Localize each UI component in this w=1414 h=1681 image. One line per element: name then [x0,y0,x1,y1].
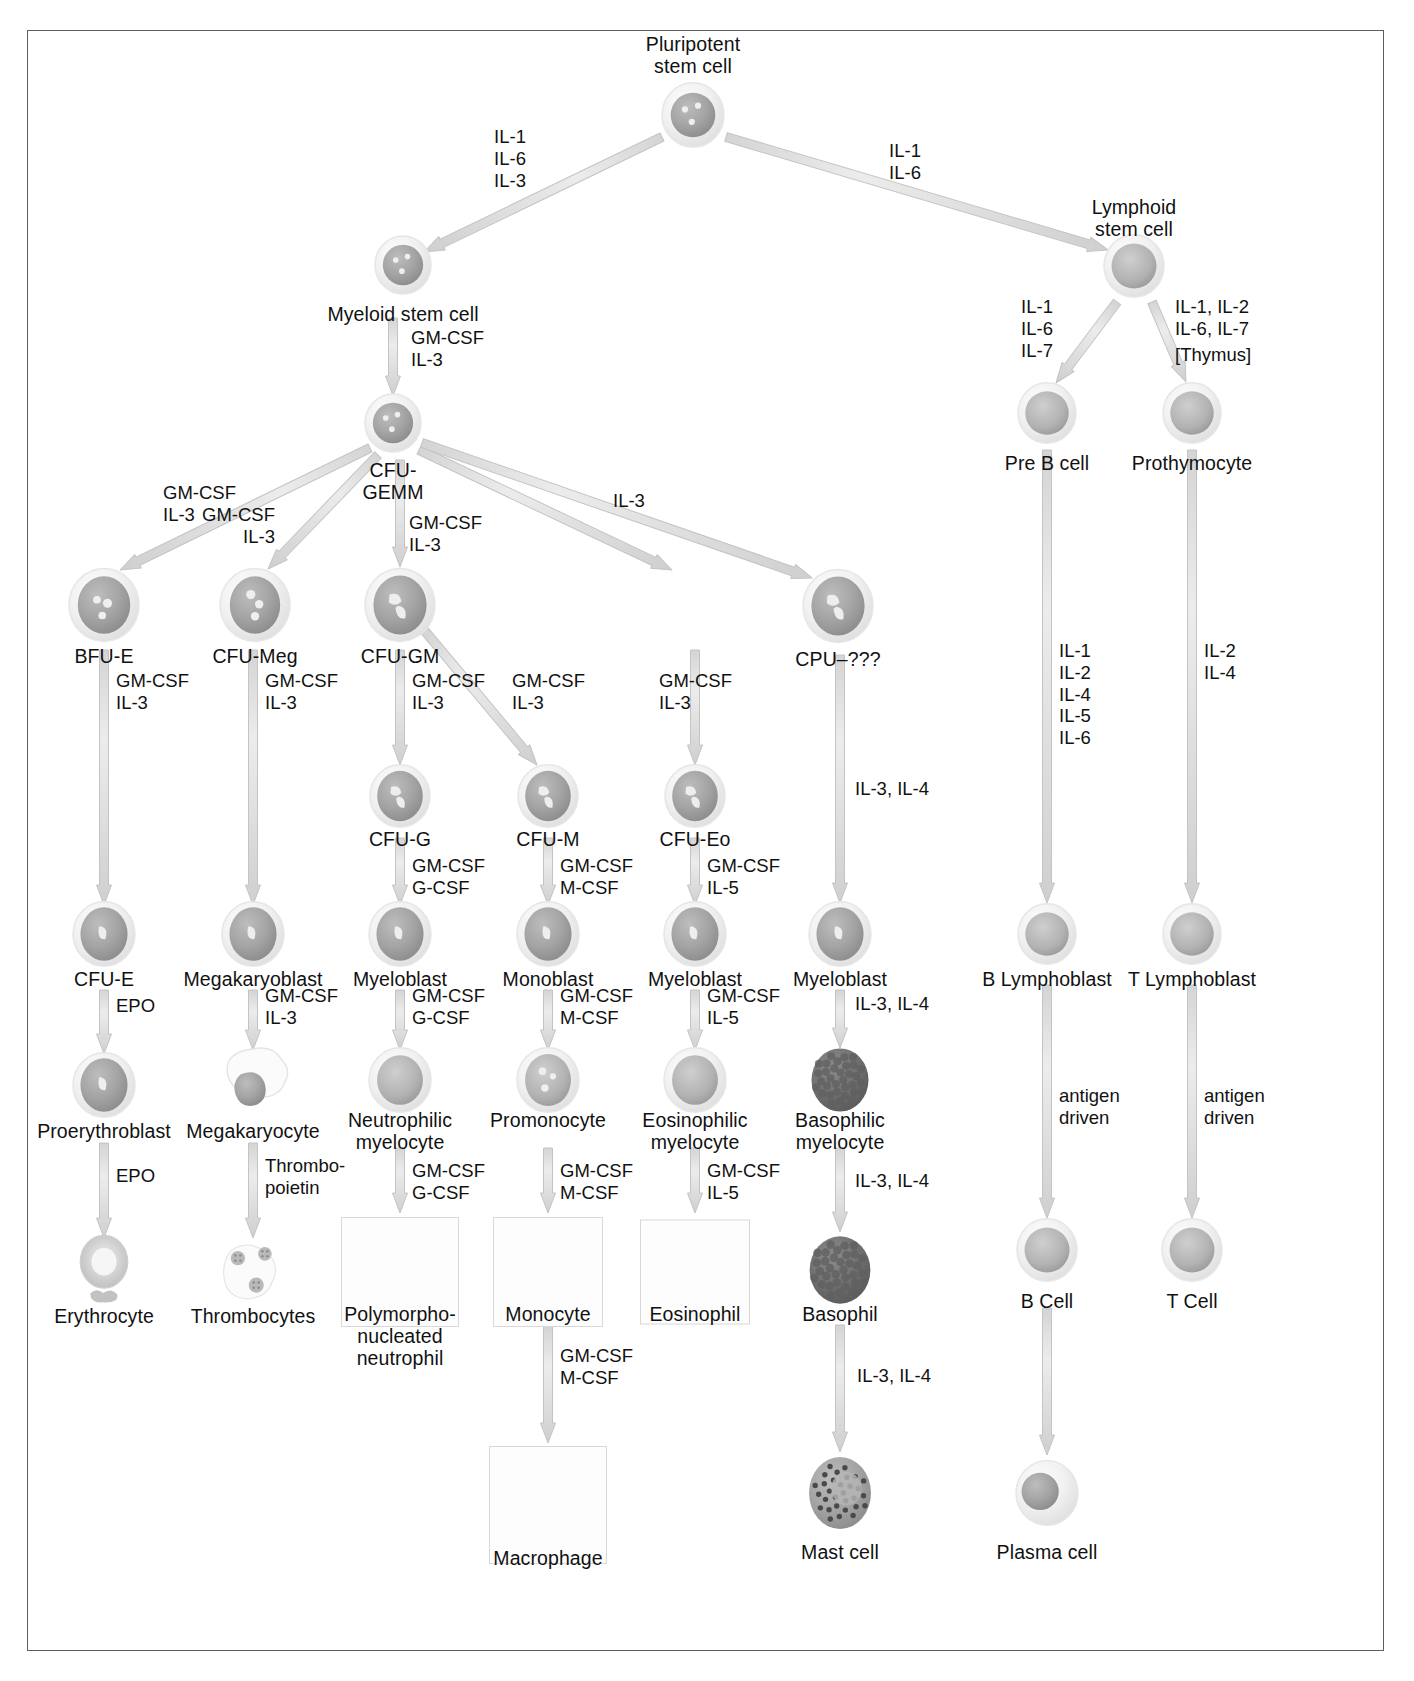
cell-pre-b [1013,379,1081,451]
cytokine-cy-cfue-epo: EPO [116,995,155,1017]
cell-cfu-gemm [360,390,426,460]
cytokine-cy-megablast: GM-CSF IL-3 [265,985,338,1029]
cell-myeloid [370,232,436,302]
cell-label-cfu-eo: CFU-Eo [659,828,730,850]
cell-label-mast-cell: Mast cell [801,1541,879,1563]
cell-megakaryoblast [217,898,289,974]
cell-label-cfu-e: CFU-E [74,968,134,990]
cell-monoblast [512,898,584,974]
cytokine-cy-cpu-myelo: IL-3, IL-4 [855,778,929,800]
cell-label-t-cell: T Cell [1166,1290,1217,1312]
cell-label-megakaryocyte: Megakaryocyte [186,1120,320,1142]
cell-cpu-unknown [798,566,878,650]
cell-label-b-cell: B Cell [1021,1290,1074,1312]
cell-label-t-lymphoblast: T Lymphoblast [1128,968,1256,990]
cell-megakaryocyte [212,1044,294,1130]
cytokine-cy-gemm-cpu: IL-3 [613,490,645,512]
cell-label-cpu-unknown: CPU–??? [795,648,880,670]
cell-cfu-meg [215,565,295,649]
cytokine-cy-lymph-preb: IL-1 IL-6 IL-7 [1021,296,1053,361]
cell-myeloblast-g [364,898,436,974]
cytokine-cy-cfumeg-mb: GM-CSF IL-3 [265,670,338,714]
cell-label-pmn: Polymorpho- nucleated neutrophil [344,1303,456,1370]
cell-label-cfu-g: CFU-G [369,828,431,850]
cell-bfu-e [64,565,144,649]
cytokine-cy-cfugm-cfug: GM-CSF IL-3 [412,670,485,714]
cell-cfu-m [513,761,583,835]
cell-label-cfu-gemm: CFU- GEMM [362,459,423,503]
cytokine-cy-myeloblast-eo: GM-CSF IL-5 [707,985,780,1029]
cell-label-basophil: Basophil [802,1303,878,1325]
cell-label-eosinophil: Eosinophil [650,1303,741,1325]
cell-label-cfu-meg: CFU-Meg [212,645,297,667]
cell-lymphoid [1099,231,1169,305]
cytokine-cy-baso: IL-3, IL-4 [855,1170,929,1192]
cytokine-cy-bfue-cfue: GM-CSF IL-3 [116,670,189,714]
cell-plasma-cell [1011,1457,1083,1533]
cell-cfu-eo [660,761,730,835]
cell-erythrocyte [66,1232,142,1312]
cell-thrombocytes [212,1229,294,1315]
cell-b-cell [1012,1215,1082,1289]
cell-label-thrombocytes: Thrombocytes [191,1305,316,1327]
cell-label-promonocyte: Promonocyte [490,1109,606,1131]
cell-label-lymphoid: Lymphoid stem cell [1092,196,1177,240]
cytokine-cy-tlympho-antigen: antigen driven [1204,1085,1265,1129]
cytokine-cy-cfum-m: GM-CSF M-CSF [560,855,633,899]
cytokine-cy-lymph-prothy: IL-1, IL-2 IL-6, IL-7 [1175,296,1249,340]
cell-label-b-lymphoblast: B Lymphoblast [982,968,1112,990]
cell-label-plasma-cell: Plasma cell [997,1541,1098,1563]
cytokine-cy-promono: GM-CSF M-CSF [560,1160,633,1204]
cytokine-cy-gemm-cfumeg: GM-CSF IL-3 [202,504,275,548]
cell-label-proerythroblast: Proerythroblast [37,1120,171,1142]
cell-myeloblast-ba [804,898,876,974]
cell-label-neutrophilic: Neutrophilic myelocyte [348,1109,452,1153]
cytokine-cy-gemm-cfugm: GM-CSF IL-3 [409,512,482,556]
cytokine-cy-monoblast: GM-CSF M-CSF [560,985,633,1029]
cell-cfu-e [68,898,140,974]
cytokine-cy-basophil-mast: IL-3, IL-4 [857,1365,931,1387]
cytokine-cy-cfugm-cfum: GM-CSF IL-3 [512,670,585,714]
cell-label-basophilic: Basophilic myelocyte [795,1109,885,1153]
cytokine-cy-blympho-antigen: antigen driven [1059,1085,1120,1129]
cell-label-pre-b: Pre B cell [1005,452,1089,474]
cell-basophil [802,1232,878,1312]
cell-label-cfu-gm: CFU-GM [361,645,440,667]
diagram-canvas: Pluripotent stem cellMyeloid stem cellLy… [0,0,1414,1681]
cytokine-cy-eosino: GM-CSF IL-5 [707,1160,780,1204]
cell-proerythroblast [68,1049,140,1125]
cytokine-cy-neutro: GM-CSF G-CSF [412,1160,485,1204]
cell-label-bfu-e: BFU-E [75,645,134,667]
cell-label-macrophage: Macrophage [493,1547,602,1569]
cell-b-lymphoblast [1013,900,1081,972]
cell-cfu-gm [360,565,440,649]
cell-label-myeloblast-ba: Myeloblast [793,968,887,990]
cell-label-pluripotent: Pluripotent stem cell [646,33,740,77]
cell-label-myeloid: Myeloid stem cell [327,303,478,325]
cytokine-cy-pluri-myeloid: IL-1 IL-6 IL-3 [494,126,526,191]
cell-t-cell [1157,1215,1227,1289]
cytokine-cy-thrombopoietin: Thrombo- poietin [265,1155,345,1199]
cytokine-cy-monocyte-macro: GM-CSF M-CSF [560,1345,633,1389]
cytokine-cy-pluri-lymphoid: IL-1 IL-6 [889,140,921,184]
cell-label-erythrocyte: Erythrocyte [54,1305,154,1327]
cell-label-monocyte: Monocyte [505,1303,590,1325]
cytokine-cy-prothy-tlympho: IL-2 IL-4 [1204,640,1236,684]
cytokine-cy-proery-epo: EPO [116,1165,155,1187]
cell-prothymocyte [1158,379,1226,451]
cytokine-cy-thymus: [Thymus] [1175,344,1251,366]
cytokine-cy-preb-blympho: IL-1 IL-2 IL-4 IL-5 IL-6 [1059,640,1091,749]
cell-mast-cell [799,1452,881,1538]
cytokine-cy-cfueo: GM-CSF IL-3 [659,670,732,714]
cell-label-cfu-m: CFU-M [516,828,579,850]
cell-pluripotent [657,79,729,155]
cytokine-cy-cfueo-eo: GM-CSF IL-5 [707,855,780,899]
cytokine-cy-myeloid-gemm: GM-CSF IL-3 [411,327,484,371]
cell-label-prothymocyte: Prothymocyte [1132,452,1252,474]
cell-label-eosinophilic: Eosinophilic myelocyte [642,1109,747,1153]
cell-cfu-g [365,761,435,835]
cytokine-cy-myeloblast-g: GM-CSF G-CSF [412,985,485,1029]
cytokine-cy-cfug-g: GM-CSF G-CSF [412,855,485,899]
cytokine-cy-myeloblast-ba: IL-3, IL-4 [855,993,929,1015]
cell-myeloblast-eo [659,898,731,974]
